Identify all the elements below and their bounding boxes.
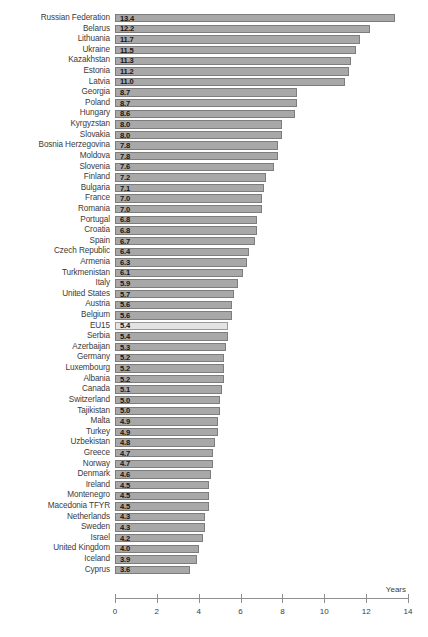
bar-value-label: 5.4 [120, 322, 130, 330]
category-label: Kazakhstan [0, 55, 110, 66]
bar-track: 4.3 [115, 513, 408, 521]
bar [115, 237, 255, 245]
bar-row: Uzbekistan4.8 [0, 437, 428, 448]
bar-row: Kyrgyzstan8.0 [0, 119, 428, 130]
axis-tick-label: 0 [113, 607, 117, 616]
category-label: Ireland [0, 480, 110, 491]
bar-row: Sweden4.3 [0, 522, 428, 533]
bar-row: Albania5.2 [0, 374, 428, 385]
bar-row: Montenegro4.5 [0, 490, 428, 501]
bar-track: 4.7 [115, 460, 408, 468]
bar-track: 13.4 [115, 14, 408, 22]
category-label: Montenegro [0, 490, 110, 501]
bar-value-label: 7.8 [120, 152, 130, 160]
category-label: Moldova [0, 151, 110, 162]
category-label: Bulgaria [0, 183, 110, 194]
bar-value-label: 6.1 [120, 269, 130, 277]
category-label: Spain [0, 236, 110, 247]
bar [115, 375, 224, 383]
bar-row: Netherlands4.3 [0, 512, 428, 523]
axis-tick [199, 594, 200, 603]
bar-row: Canada5.1 [0, 384, 428, 395]
category-label: Belarus [0, 24, 110, 35]
bar [115, 120, 282, 128]
bar-row: Kazakhstan11.3 [0, 55, 428, 66]
bar-track: 4.5 [115, 502, 408, 510]
category-label: Russian Federation [0, 13, 110, 24]
bar-track: 5.3 [115, 343, 408, 351]
bar [115, 152, 278, 160]
bar-value-label: 5.1 [120, 385, 130, 393]
bar-value-label: 6.8 [120, 226, 130, 234]
category-label: Malta [0, 416, 110, 427]
bar [115, 173, 266, 181]
category-label: Denmark [0, 469, 110, 480]
bar-value-label: 4.6 [120, 470, 130, 478]
bar-row: United States5.7 [0, 289, 428, 300]
bar [115, 354, 224, 362]
bar-value-label: 7.0 [120, 194, 130, 202]
bar [115, 205, 262, 213]
bar-track: 8.6 [115, 110, 408, 118]
bar-row: Belarus12.2 [0, 24, 428, 35]
bar-row: Czech Republic6.4 [0, 246, 428, 257]
bar-track: 6.1 [115, 269, 408, 277]
bar [115, 290, 234, 298]
bar [115, 364, 224, 372]
bar [115, 110, 295, 118]
bar-track: 7.0 [115, 194, 408, 202]
bar [115, 88, 297, 96]
category-label: Poland [0, 98, 110, 109]
category-label: Canada [0, 384, 110, 395]
bar-value-label: 8.0 [120, 131, 130, 139]
bar-row: Azerbaijan5.3 [0, 342, 428, 353]
category-label: United States [0, 289, 110, 300]
bar-track: 6.7 [115, 237, 408, 245]
category-label: Netherlands [0, 512, 110, 523]
bar-row: Serbia5.4 [0, 331, 428, 342]
bar-track: 4.6 [115, 470, 408, 478]
axis-tick-label: 10 [320, 607, 329, 616]
bar-track: 5.2 [115, 375, 408, 383]
bar-track: 4.9 [115, 417, 408, 425]
bar-row: Tajikistan5.0 [0, 406, 428, 417]
bar-row: Italy5.9 [0, 278, 428, 289]
bar-track: 7.0 [115, 205, 408, 213]
bar-value-label: 8.7 [120, 88, 130, 96]
bar-row: Estonia11.2 [0, 66, 428, 77]
bar-value-label: 7.6 [120, 163, 130, 171]
bar-track: 4.7 [115, 449, 408, 457]
category-label: Azerbaijan [0, 342, 110, 353]
bar-value-label: 4.0 [120, 545, 130, 553]
bar-value-label: 5.0 [120, 407, 130, 415]
category-label: Hungary [0, 108, 110, 119]
bar-track: 3.9 [115, 555, 408, 563]
bar-row: Croatia6.8 [0, 225, 428, 236]
category-label: Bosnia Herzegovina [0, 140, 110, 151]
bar-value-label: 11.2 [120, 67, 134, 75]
bar-row: Austria5.6 [0, 299, 428, 310]
bar-rows-container: Russian Federation13.4Belarus12.2Lithuan… [0, 13, 428, 575]
bar [115, 35, 360, 43]
bar-track: 7.1 [115, 184, 408, 192]
bar-track: 4.5 [115, 492, 408, 500]
bar [115, 141, 278, 149]
bar-value-label: 7.1 [120, 184, 130, 192]
bar-value-label: 5.6 [120, 311, 130, 319]
axis-tick-label: 14 [404, 607, 413, 616]
x-axis-line [115, 598, 408, 599]
bar-track: 7.8 [115, 141, 408, 149]
category-label: Finland [0, 172, 110, 183]
bar-value-label: 7.8 [120, 141, 130, 149]
category-label: Cyprus [0, 565, 110, 576]
category-label: Lithuania [0, 34, 110, 45]
bar-track: 7.8 [115, 152, 408, 160]
bar-value-label: 4.5 [120, 481, 130, 489]
bar-track: 5.0 [115, 407, 408, 415]
clipped-title-remnant [150, 0, 300, 5]
bar-value-label: 3.9 [120, 555, 130, 563]
bar-row: Russian Federation13.4 [0, 13, 428, 24]
axis-tick [282, 594, 283, 603]
bar-row: Belgium5.6 [0, 310, 428, 321]
bar-track: 7.6 [115, 163, 408, 171]
